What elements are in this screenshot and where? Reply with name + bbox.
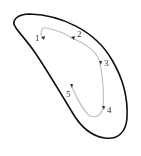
region-outline <box>14 14 127 138</box>
point-label-1: 1 <box>35 33 40 43</box>
direction-markers <box>41 36 105 110</box>
point-label-3: 3 <box>104 58 109 68</box>
point-label-5: 5 <box>66 89 71 99</box>
diagram-canvas: 1 2 3 4 5 <box>0 0 141 156</box>
point-label-2: 2 <box>77 29 82 39</box>
diagram-svg: 1 2 3 4 5 <box>0 0 141 156</box>
trajectory-path <box>41 28 103 117</box>
point-label-4: 4 <box>107 105 112 115</box>
arrow-marker-1 <box>41 36 45 40</box>
point-labels: 1 2 3 4 5 <box>35 29 112 115</box>
